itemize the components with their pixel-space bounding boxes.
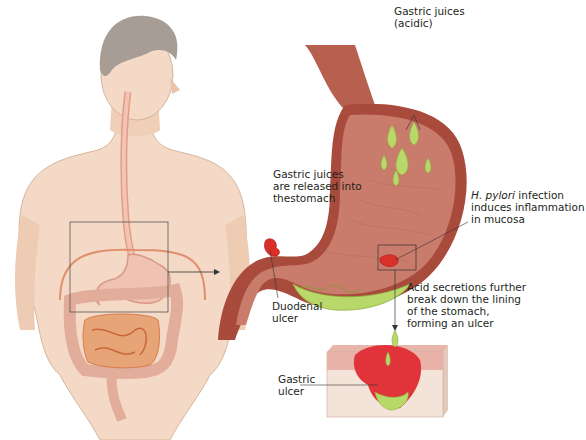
duodenal-ulcer	[264, 239, 279, 257]
label-gastric-juices-acidic: Gastric juices (acidic)	[394, 5, 465, 29]
tissue-cross-section	[300, 330, 448, 417]
label-h-pylori: H. pylori infection induces inflammation…	[471, 189, 585, 225]
label-acid-secretions: Acid secretions further break down the l…	[407, 281, 526, 329]
human-body-illustration	[15, 16, 250, 440]
label-gastric-juices-released: Gastric juices are released into thestom…	[273, 168, 362, 204]
label-h-pylori-name: H. pylori	[471, 189, 515, 201]
label-duodenal-ulcer: Duodenal ulcer	[272, 300, 322, 324]
label-gastric-ulcer: Gastric ulcer	[278, 373, 315, 397]
